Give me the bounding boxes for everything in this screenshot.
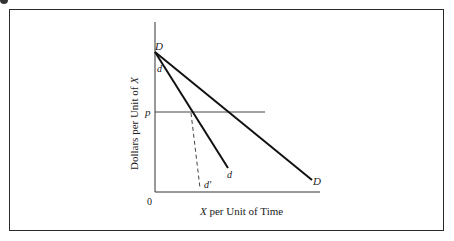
label-p: p <box>144 106 151 118</box>
y-axis-label: Dollars per Unit of X <box>128 76 140 170</box>
label-D-top: D <box>154 40 163 52</box>
y-axis-label-var: X <box>128 76 140 85</box>
label-d-prime: d' <box>204 179 212 190</box>
demand-curve-d-prime <box>191 113 200 188</box>
demand-curve-d <box>155 52 228 168</box>
demand-curve-D <box>155 52 312 180</box>
label-origin: 0 <box>147 196 152 207</box>
label-D-end: D <box>312 175 321 187</box>
x-axis-label: X per Unit of Time <box>199 205 283 217</box>
y-axis-label-prefix: Dollars per Unit of <box>128 84 140 170</box>
demand-curve-diagram: D d p d d' D 0 X per Unit of Time Dollar… <box>0 0 454 241</box>
x-axis-label-suffix: per Unit of Time <box>207 205 284 217</box>
label-d-end: d <box>227 169 233 180</box>
